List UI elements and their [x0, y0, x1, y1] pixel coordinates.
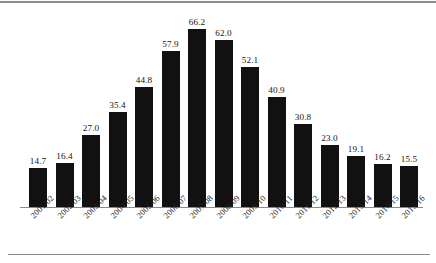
bar — [241, 67, 259, 208]
bar-value-label: 52.1 — [234, 55, 266, 65]
bar — [162, 51, 180, 207]
bar-value-label: 44.8 — [128, 75, 160, 85]
bar-value-label: 27.0 — [75, 123, 107, 133]
bar-value-label: 15.5 — [393, 154, 425, 164]
bar-value-label: 35.4 — [102, 100, 134, 110]
chart-figure: 14.716.427.035.444.857.966.262.052.140.9… — [0, 0, 436, 263]
bar — [135, 87, 153, 208]
bar — [188, 29, 206, 208]
bar — [215, 40, 233, 207]
bottom-divider-rule — [8, 254, 430, 255]
bar-value-label: 40.9 — [261, 85, 293, 95]
bar-value-label: 30.8 — [287, 112, 319, 122]
bar-value-label: 16.4 — [49, 151, 81, 161]
bar-value-label: 57.9 — [155, 39, 187, 49]
bar-value-label: 23.0 — [314, 133, 346, 143]
bar — [268, 97, 286, 207]
bar — [109, 112, 127, 208]
bar — [294, 124, 312, 207]
bar-value-label: 66.2 — [181, 17, 213, 27]
plot-area: 14.716.427.035.444.857.966.262.052.140.9… — [0, 0, 436, 263]
bar-value-label: 62.0 — [208, 28, 240, 38]
